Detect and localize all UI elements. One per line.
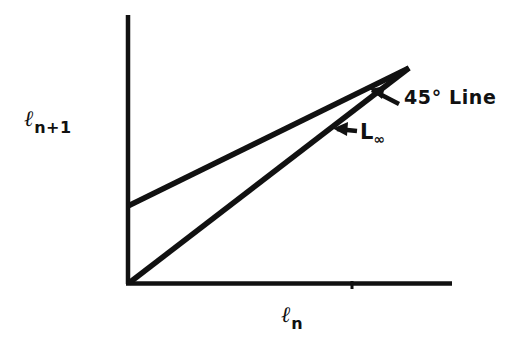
x-axis-label: ℓn (281, 304, 302, 326)
plot-drawing (0, 0, 517, 354)
figure-canvas: ℓn+1 ℓn 45° Line L∞ (0, 0, 517, 354)
forty-five-degree-line (129, 68, 409, 283)
y-axis-label: ℓn+1 (24, 108, 71, 130)
x-axis-label-subscript: n (291, 314, 303, 333)
y-axis-label-subscript: n+1 (34, 118, 71, 137)
fixed-point-symbol: L (360, 120, 373, 144)
forty-five-degree-label: 45° Line (404, 88, 496, 107)
fixed-point-subscript: ∞ (373, 131, 385, 147)
x-axis-label-symbol: ℓ (281, 302, 290, 327)
y-axis-label-symbol: ℓ (24, 106, 33, 131)
fixed-point-label: L∞ (360, 122, 385, 143)
